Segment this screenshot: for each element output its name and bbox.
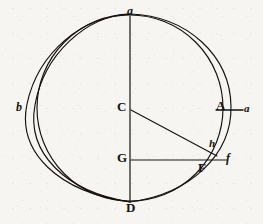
geometric-figure: a D C G A a b h F f [0, 0, 263, 224]
radius-line-C-h [131, 110, 217, 156]
outer-arc-left-b [26, 14, 130, 202]
point-label-h: h [209, 138, 215, 149]
point-label-a-right: a [244, 103, 250, 114]
point-label-b: b [16, 101, 22, 113]
point-label-G: G [117, 151, 127, 164]
point-label-a-top: a [127, 5, 133, 17]
point-label-D: D [126, 201, 135, 214]
point-label-A: A [216, 99, 225, 112]
point-label-F: F [198, 161, 206, 174]
point-label-f: f [226, 152, 230, 164]
point-label-C: C [117, 100, 126, 113]
